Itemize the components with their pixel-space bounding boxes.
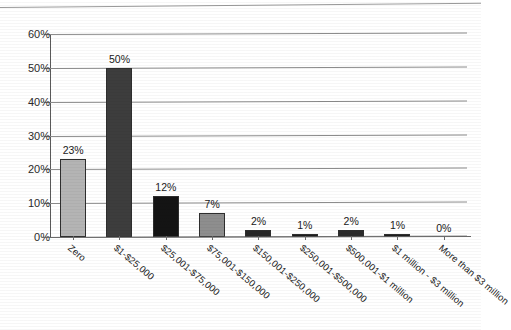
x-axis-label-slot: $150,001-$250,000 <box>235 240 281 330</box>
x-axis-tick-mark <box>397 236 398 240</box>
x-axis-tick-mark <box>258 236 259 240</box>
x-axis-labels: Zero$1-$25,000$25,001-$75,000$75,001-$15… <box>50 240 467 330</box>
bar-category[interactable]: 23% <box>50 34 96 237</box>
bar-value-label: 2% <box>344 215 359 227</box>
bar-value-label: 7% <box>205 198 220 210</box>
x-axis-tick-label: More than $3 million <box>437 242 511 307</box>
x-axis-tick-mark <box>305 236 306 240</box>
bar[interactable] <box>199 213 225 237</box>
x-axis-tick-label: Zero <box>66 242 88 263</box>
x-axis-label-slot: Zero <box>50 240 96 330</box>
x-axis-tick-mark <box>119 236 120 240</box>
x-axis-label-slot: $500,001-$1 million <box>328 240 374 330</box>
bar-value-label: 50% <box>109 53 130 65</box>
bar-value-label: 1% <box>390 219 405 231</box>
x-axis-tick-mark <box>444 236 445 240</box>
x-axis-line <box>42 236 471 238</box>
bar-value-label: 2% <box>251 215 266 227</box>
bar-category[interactable]: 0% <box>421 34 467 237</box>
bar-category[interactable]: 1% <box>282 34 328 237</box>
bar-value-label: 1% <box>297 219 312 231</box>
x-axis-label-slot: $75,001-$150,000 <box>189 240 235 330</box>
bar-value-label: 12% <box>155 181 176 193</box>
x-axis-tick-mark <box>351 236 352 240</box>
bar-category[interactable]: 12% <box>143 34 189 237</box>
bar-category[interactable]: 7% <box>189 34 235 237</box>
bar[interactable] <box>60 159 86 237</box>
bar-category[interactable]: 2% <box>235 34 281 237</box>
x-axis-label-slot: More than $3 million <box>421 240 467 330</box>
bar-category[interactable]: 50% <box>96 34 142 237</box>
x-axis-label-slot: $250,001-$500,000 <box>282 240 328 330</box>
bar-value-label: 23% <box>63 144 84 156</box>
plot-area: 23%50%12%7%2%1%2%1%0% <box>50 34 467 237</box>
x-axis-label-slot: $25,001-$75,000 <box>143 240 189 330</box>
bar[interactable] <box>106 68 132 237</box>
x-axis-tick-mark <box>166 236 167 240</box>
bar[interactable] <box>153 196 179 237</box>
bar-value-label: 0% <box>436 222 451 234</box>
x-axis-label-slot: $1-$25,000 <box>96 240 142 330</box>
y-axis: 0%10%20%30%40%50%60% <box>0 0 50 330</box>
x-axis-tick-mark <box>73 236 74 240</box>
bar-category[interactable]: 2% <box>328 34 374 237</box>
x-axis-tick-mark <box>212 236 213 240</box>
x-axis-label-slot: $1 million - $3 million <box>374 240 420 330</box>
bar-category[interactable]: 1% <box>374 34 420 237</box>
